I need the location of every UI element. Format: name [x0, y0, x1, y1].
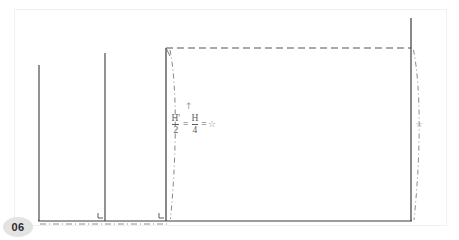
formula-numerator-1: H': [171, 114, 182, 124]
formula-denominator-2: 4: [192, 124, 199, 135]
corner-marker-1: [98, 213, 103, 218]
right-profile-curve: [414, 50, 420, 220]
up-arrow-marker: ↑: [185, 102, 193, 111]
right-star-icon: ☆: [415, 120, 423, 129]
formula-equals-2: =: [201, 120, 206, 130]
formula-equals-1: =: [183, 120, 188, 130]
formula-numerator-2: H: [190, 114, 199, 124]
formula-denominator-1: 2: [172, 124, 179, 135]
formula-fraction-2: H 4: [190, 114, 199, 135]
page-number-badge: 06: [3, 217, 33, 237]
diagram-canvas: ↑ H' 2 = H 4 = ☆ ☆ 06: [0, 0, 459, 240]
height-ratio-formula: H' 2 = H 4 = ☆: [170, 114, 216, 135]
center-wall-top-tick: [166, 48, 170, 56]
formula-result-star-icon: ☆: [208, 120, 216, 129]
formula-fraction-1: H' 2: [171, 114, 182, 135]
drawing-layer: [0, 0, 459, 240]
corner-marker-2: [159, 213, 164, 218]
